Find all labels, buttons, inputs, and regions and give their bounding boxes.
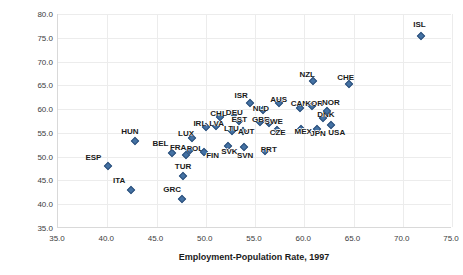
data-point-label: NZL (299, 69, 315, 78)
data-point[interactable] (179, 172, 187, 180)
data-point-label: KOR (305, 99, 323, 108)
data-point-label: IRL (193, 119, 206, 128)
y-axis-tick-label: 70.0 (13, 57, 53, 66)
y-axis-tick-label: 60.0 (13, 105, 53, 114)
y-axis-tick-label: 55.0 (13, 128, 53, 137)
y-axis-tick-label: 50.0 (13, 152, 53, 161)
data-point-label: AUT (238, 126, 254, 135)
gridline-vertical (157, 14, 158, 227)
data-point-label: USA (328, 127, 345, 136)
data-point[interactable] (131, 137, 139, 145)
data-point-label: PRT (261, 145, 277, 154)
data-point-label: LVA (209, 118, 224, 127)
data-point-label: NLD (253, 103, 269, 112)
scatter-chart: Employment-Population-Rate, 2017 ESPITAH… (0, 0, 463, 275)
x-axis-title: Employment-Population Rate, 1997 (57, 252, 451, 262)
plot-area: ESPITAHUNBELGRCTURFRAPOLLUXIRLFINLVACHLS… (57, 14, 451, 228)
data-point-label: ITA (113, 176, 125, 185)
data-point[interactable] (178, 194, 186, 202)
data-point-label: CZE (270, 127, 286, 136)
data-point-label: ESP (85, 152, 101, 161)
data-point-label: ISR (235, 90, 248, 99)
x-axis-tick-label: 75.0 (443, 234, 459, 243)
gridline-vertical (403, 14, 404, 227)
data-point-label: SVN (237, 150, 253, 159)
data-point-label: CHL (210, 109, 226, 118)
x-axis-tick-label: 40.0 (98, 234, 114, 243)
data-point-label: SVK (221, 146, 237, 155)
data-point-label: FRA (170, 143, 186, 152)
y-axis-tick-label: 35.0 (13, 224, 53, 233)
data-point-label: ISL (413, 19, 425, 28)
data-point-label: BEL (152, 139, 168, 148)
data-point-label: FIN (206, 150, 219, 159)
x-axis-tick-label: 65.0 (345, 234, 361, 243)
y-axis-tick-label: 45.0 (13, 176, 53, 185)
data-point-label: TUR (175, 162, 191, 171)
data-point[interactable] (104, 162, 112, 170)
y-axis-tick-label: 75.0 (13, 33, 53, 42)
gridline-vertical (107, 14, 108, 227)
y-axis-tick-label: 40.0 (13, 200, 53, 209)
data-point-label: NOR (322, 98, 340, 107)
data-point-label: AUS (270, 94, 287, 103)
data-point-label: CHE (337, 72, 354, 81)
x-axis-tick-label: 45.0 (148, 234, 164, 243)
gridline-vertical (304, 14, 305, 227)
data-point-label: HUN (121, 127, 138, 136)
data-point[interactable] (127, 186, 135, 194)
x-axis-tick-label: 50.0 (197, 234, 213, 243)
x-axis-tick-label: 55.0 (246, 234, 262, 243)
y-axis-title-holder: Employment-Population-Rate, 2017 (12, 14, 26, 228)
data-point[interactable] (417, 32, 425, 40)
data-point-label: SWE (265, 117, 283, 126)
data-point-label: LUX (178, 128, 194, 137)
gridline-vertical (452, 14, 453, 227)
y-axis-tick-label: 65.0 (13, 81, 53, 90)
x-axis-tick-label: 35.0 (49, 234, 65, 243)
x-axis-tick-label: 60.0 (295, 234, 311, 243)
y-axis-tick-label: 80.0 (13, 10, 53, 19)
data-point-label: JPN (310, 128, 326, 137)
data-point-label: LTU (224, 123, 239, 132)
data-point-label: GRC (163, 184, 181, 193)
gridline-vertical (354, 14, 355, 227)
x-axis-tick-label: 70.0 (394, 234, 410, 243)
data-point-label: EST (231, 114, 247, 123)
